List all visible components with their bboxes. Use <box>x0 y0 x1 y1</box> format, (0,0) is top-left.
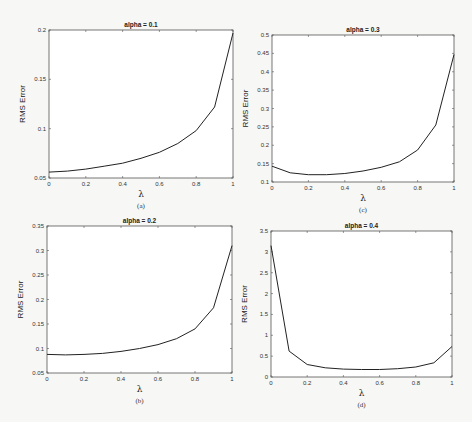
x-tick-label: 0 <box>45 376 49 382</box>
x-tick-label: 0.2 <box>82 181 91 187</box>
x-tick-label: 0.4 <box>339 380 348 386</box>
x-tick-label: 0 <box>47 181 51 187</box>
y-tick-label: 0.15 <box>32 321 44 327</box>
x-tick-label: 0.4 <box>118 181 127 187</box>
chart-title: alpha = 0.3 <box>346 26 380 34</box>
plot-area <box>271 231 452 377</box>
chart-b: 00.20.40.60.810.050.10.150.20.250.30.35a… <box>16 217 234 405</box>
y-tick-label: 2.5 <box>260 270 269 276</box>
x-tick-label: 0.6 <box>375 380 384 386</box>
y-tick-label: 0.25 <box>32 272 44 278</box>
chart-title: alpha = 0.1 <box>124 21 158 29</box>
y-tick-label: 2 <box>265 291 269 297</box>
x-tick-label: 0.6 <box>377 185 386 191</box>
y-tick-label: 0.1 <box>36 346 45 352</box>
subfigure-caption: (c) <box>359 206 367 214</box>
y-tick-label: 0.05 <box>34 175 46 181</box>
y-tick-label: 0.2 <box>36 297 45 303</box>
plot-area <box>272 35 454 182</box>
y-tick-label: 0.25 <box>257 124 269 130</box>
x-tick-label: 1 <box>231 181 235 187</box>
y-tick-label: 0.5 <box>260 353 269 359</box>
y-tick-label: 1.5 <box>260 311 269 317</box>
subfigure-caption: (d) <box>357 401 366 409</box>
y-tick-label: 0 <box>265 374 269 380</box>
y-tick-label: 0.45 <box>257 50 269 56</box>
x-tick-label: 1 <box>452 185 456 191</box>
x-axis-label: λ <box>359 388 365 398</box>
x-tick-label: 0.8 <box>191 376 200 382</box>
y-tick-label: 0.3 <box>36 248 45 254</box>
x-tick-label: 0.4 <box>117 376 126 382</box>
x-tick-label: 0.4 <box>341 185 350 191</box>
x-tick-label: 1 <box>230 376 234 382</box>
y-tick-label: 0.35 <box>32 223 44 229</box>
y-tick-label: 0.35 <box>257 87 269 93</box>
x-tick-label: 0.2 <box>80 376 89 382</box>
y-tick-label: 0.5 <box>261 32 270 38</box>
y-tick-label: 3 <box>265 249 269 255</box>
chart-title: alpha = 0.2 <box>123 217 157 225</box>
chart-title: alpha = 0.4 <box>345 222 379 230</box>
x-tick-label: 0.8 <box>413 185 422 191</box>
x-tick-label: 0.6 <box>154 376 163 382</box>
y-tick-label: 0.1 <box>38 126 47 132</box>
x-tick-label: 0.8 <box>412 380 421 386</box>
x-tick-label: 0.8 <box>192 181 201 187</box>
x-axis-label: λ <box>138 189 144 199</box>
y-axis-label: RMS Error <box>241 89 250 127</box>
y-tick-label: 1 <box>265 332 269 338</box>
y-tick-label: 0.05 <box>32 370 44 376</box>
x-axis-label: λ <box>360 193 366 203</box>
y-tick-label: 0.3 <box>261 106 270 112</box>
x-tick-label: 0.6 <box>155 181 164 187</box>
y-tick-label: 3.5 <box>260 228 269 234</box>
y-tick-label: 0.4 <box>261 69 270 75</box>
y-tick-label: 0.15 <box>257 161 269 167</box>
chart-c: 00.20.40.60.810.10.150.20.250.30.350.40.… <box>241 26 456 214</box>
y-tick-label: 0.15 <box>34 76 46 82</box>
y-axis-label: RMS Error <box>240 285 249 323</box>
x-tick-label: 0.2 <box>303 380 312 386</box>
x-tick-label: 0.2 <box>304 185 313 191</box>
subfigure-caption: (a) <box>137 202 145 210</box>
plot-area <box>49 30 233 178</box>
plot-area <box>47 226 232 373</box>
x-tick-label: 1 <box>450 380 454 386</box>
x-axis-label: λ <box>137 384 143 394</box>
subfigure-caption: (b) <box>135 397 144 405</box>
y-tick-label: 0.2 <box>261 142 270 148</box>
y-tick-label: 0.1 <box>261 179 270 185</box>
chart-d: 00.20.40.60.8100.511.522.533.5alpha = 0.… <box>240 222 454 409</box>
x-tick-label: 0 <box>270 185 274 191</box>
chart-a: 00.20.40.60.810.050.10.150.2alpha = 0.1R… <box>18 21 235 210</box>
y-axis-label: RMS Error <box>16 280 25 318</box>
x-tick-label: 0 <box>269 380 273 386</box>
y-tick-label: 0.2 <box>38 27 47 33</box>
y-axis-label: RMS Error <box>18 85 27 123</box>
figure-svg: 00.20.40.60.810.050.10.150.2alpha = 0.1R… <box>0 0 472 422</box>
